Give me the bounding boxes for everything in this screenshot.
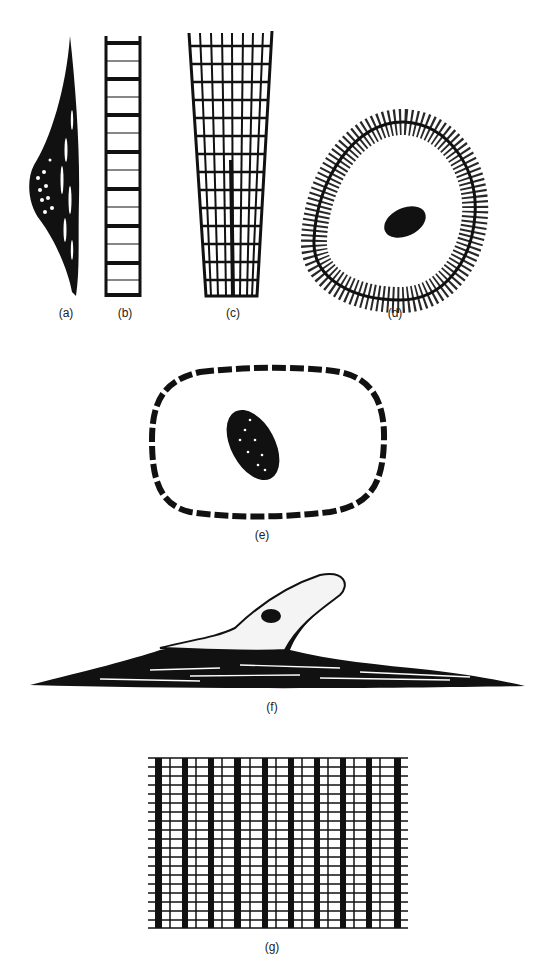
label-a: (a): [46, 306, 86, 320]
figure-canvas: [0, 0, 552, 979]
label-b: (b): [105, 306, 145, 320]
label-d: (d): [375, 306, 415, 320]
label-e: (e): [242, 528, 282, 542]
panel-f-flattened-cell: [30, 574, 525, 688]
panel-g-striated-grid: [148, 758, 408, 928]
panel-c-cardiac-fiber: [189, 31, 272, 296]
label-c: (c): [213, 306, 253, 320]
label-f: (f): [252, 700, 292, 714]
panel-e-oval-cell: [152, 368, 384, 517]
panel-b-striated-segment: [106, 36, 140, 297]
label-g: (g): [252, 940, 292, 954]
panel-d-radial-cell: [314, 122, 475, 300]
panel-a-spindle-cell: [29, 36, 79, 296]
